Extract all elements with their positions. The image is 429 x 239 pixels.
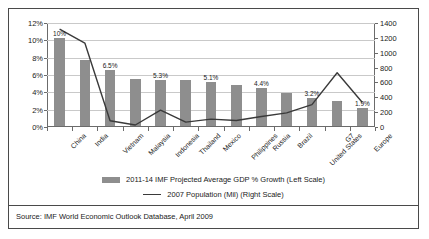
right-axis-tick-label: 400 bbox=[380, 93, 393, 102]
left-axis-tick-label: 10% bbox=[28, 36, 43, 45]
left-axis-tick-label: 2% bbox=[32, 105, 43, 114]
left-axis-tick-label: 4% bbox=[32, 88, 43, 97]
source-note: Source: IMF World Economic Outlook Datab… bbox=[16, 212, 213, 221]
chart-plot-area: 0%2%4%6%8%10%12% 02004006008001000120014… bbox=[9, 9, 418, 169]
bar-value-label: 5.3% bbox=[153, 72, 168, 79]
legend-line-swatch-icon bbox=[143, 194, 161, 195]
x-axis-tick-mark bbox=[325, 127, 326, 131]
left-axis-tick-label: 0% bbox=[32, 123, 43, 132]
category-label: Indonesia bbox=[173, 132, 199, 158]
right-axis-tick-mark bbox=[375, 38, 378, 39]
x-axis-tick-mark bbox=[198, 127, 199, 131]
x-axis-tick-mark bbox=[375, 127, 376, 131]
chart-legend: 2011-14 IMF Projected Average GDP % Grow… bbox=[9, 172, 418, 202]
right-axis-tick-label: 1400 bbox=[380, 19, 397, 28]
bar-value-label: 6.5% bbox=[103, 62, 118, 69]
right-axis-tick-mark bbox=[375, 112, 378, 113]
right-axis-tick-label: 1200 bbox=[380, 33, 397, 42]
category-label: Vietnam bbox=[122, 132, 145, 155]
x-axis-tick-mark bbox=[249, 127, 250, 131]
x-axis-tick-mark bbox=[274, 127, 275, 131]
left-axis-tick-label: 8% bbox=[32, 53, 43, 62]
x-axis-tick-mark bbox=[148, 127, 149, 131]
x-axis-tick-mark bbox=[224, 127, 225, 131]
x-axis-tick-mark bbox=[173, 127, 174, 131]
category-label: Thailand bbox=[198, 132, 222, 156]
category-label: India bbox=[93, 132, 109, 148]
category-label: Mexico bbox=[221, 132, 242, 153]
category-label: China bbox=[69, 132, 87, 150]
plot-canvas: 0%2%4%6%8%10%12% 02004006008001000120014… bbox=[47, 23, 375, 127]
category-label: Brazil bbox=[296, 132, 313, 149]
category-label: Malaysia bbox=[147, 132, 171, 156]
chart-figure: 0%2%4%6%8%10%12% 02004006008001000120014… bbox=[8, 8, 419, 229]
bar-value-label: 1.9% bbox=[355, 100, 370, 107]
legend-item-line: 2007 Population (Mil) (Right Scale) bbox=[9, 187, 418, 202]
left-axis-tick-label: 6% bbox=[32, 71, 43, 80]
bar-value-label: 4.4% bbox=[254, 80, 269, 87]
bar-value-label: 10% bbox=[53, 30, 66, 37]
category-label: Europe bbox=[373, 132, 394, 153]
right-axis-tick-mark bbox=[375, 53, 378, 54]
right-axis-tick-mark bbox=[375, 23, 378, 24]
legend-line-label: 2007 Population (Mil) (Right Scale) bbox=[167, 190, 283, 199]
legend-bar-label: 2011-14 IMF Projected Average GDP % Grow… bbox=[126, 175, 325, 184]
x-axis-tick-mark bbox=[350, 127, 351, 131]
x-axis-tick-mark bbox=[47, 127, 48, 131]
source-divider bbox=[9, 205, 418, 206]
legend-bar-swatch-icon bbox=[102, 177, 120, 183]
bar-value-label: 3.2% bbox=[305, 90, 320, 97]
left-axis-tick-label: 12% bbox=[28, 19, 43, 28]
x-axis-tick-mark bbox=[97, 127, 98, 131]
right-axis-tick-label: 1000 bbox=[380, 48, 397, 57]
right-axis-tick-label: 600 bbox=[380, 78, 393, 87]
legend-item-bar: 2011-14 IMF Projected Average GDP % Grow… bbox=[9, 172, 418, 187]
right-axis-tick-label: 0 bbox=[380, 123, 384, 132]
x-axis-tick-mark bbox=[299, 127, 300, 131]
bar-value-label: 5.1% bbox=[204, 74, 219, 81]
right-axis-tick-mark bbox=[375, 82, 378, 83]
x-axis-tick-mark bbox=[123, 127, 124, 131]
right-axis-tick-label: 200 bbox=[380, 108, 393, 117]
right-axis-tick-mark bbox=[375, 97, 378, 98]
right-axis-tick-mark bbox=[375, 68, 378, 69]
x-axis-tick-mark bbox=[72, 127, 73, 131]
right-axis-tick-label: 800 bbox=[380, 63, 393, 72]
